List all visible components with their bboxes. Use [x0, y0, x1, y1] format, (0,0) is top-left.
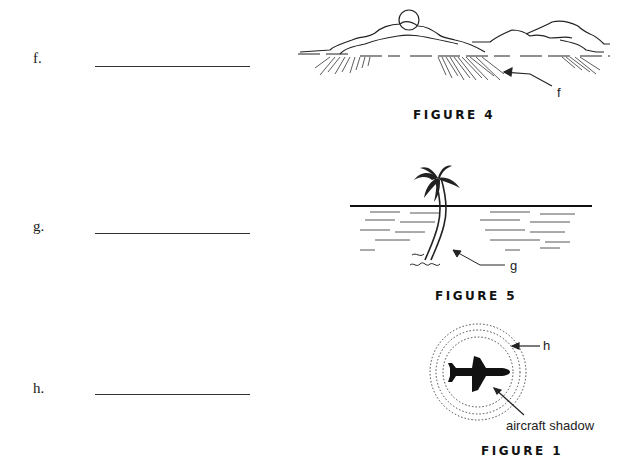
- callout-h: h: [543, 338, 550, 353]
- figure-1-aircraft-shadow-illustration: h aircraft shadow: [400, 310, 629, 435]
- question-label-h: h.: [33, 380, 44, 397]
- question-label-f: f.: [33, 50, 42, 67]
- answer-blank-h[interactable]: [95, 394, 250, 395]
- aircraft-shadow-label: aircraft shadow: [506, 418, 595, 433]
- airplane-icon: [448, 356, 510, 392]
- answer-blank-f[interactable]: [95, 66, 250, 67]
- figure-4-caption: FIGURE 4: [413, 108, 495, 122]
- figure-5-caption: FIGURE 5: [435, 289, 517, 303]
- question-label-g: g.: [33, 218, 44, 235]
- callout-f: f: [557, 85, 561, 100]
- figure-4-cloud-illustration: f: [290, 0, 629, 100]
- callout-g: g: [510, 258, 517, 273]
- figure-5-palm-tree-illustration: g: [340, 150, 629, 280]
- figure-1-caption: FIGURE 1: [481, 444, 563, 458]
- answer-blank-g[interactable]: [95, 233, 250, 234]
